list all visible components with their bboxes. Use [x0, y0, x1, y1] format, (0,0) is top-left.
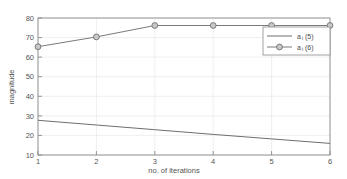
y-axis-title: magnitude [7, 69, 16, 104]
y-tick-label-10: 10 [26, 151, 34, 160]
data-point-marker [210, 23, 216, 29]
x-tick-label-6: 6 [328, 157, 332, 166]
legend-swatch-marker [277, 44, 283, 50]
legend-label-base-2: a [297, 44, 301, 51]
y-tick-label-20: 20 [26, 131, 34, 140]
legend-label-sub-2: i [302, 46, 303, 52]
line-chart: 80 70 60 50 40 30 20 10 1 2 3 4 5 6 no. … [0, 0, 347, 179]
legend[interactable]: a i (5) a i (6) [263, 27, 330, 55]
data-point-marker [94, 34, 100, 40]
x-tick-label-2: 2 [94, 157, 98, 166]
figure-container: 80 70 60 50 40 30 20 10 1 2 3 4 5 6 no. … [0, 0, 347, 179]
data-point-marker [35, 44, 41, 50]
x-tick-label-4: 4 [211, 157, 215, 166]
legend-label-tail-1: (5) [305, 33, 314, 41]
legend-box [263, 27, 330, 55]
y-tick-label-30: 30 [26, 112, 34, 121]
y-tick-label-70: 70 [26, 33, 34, 42]
legend-label-sub-1: i [302, 35, 303, 41]
y-tick-label-40: 40 [26, 92, 34, 101]
legend-label-base-1: a [297, 33, 301, 40]
legend-label-tail-2: (6) [305, 44, 314, 52]
x-axis-title: no. of iterations [148, 166, 200, 175]
y-tick-label-80: 80 [26, 14, 34, 23]
y-tick-label-60: 60 [26, 53, 34, 62]
x-tick-label-3: 3 [153, 157, 157, 166]
data-point-marker [152, 23, 158, 29]
x-tick-label-5: 5 [270, 157, 274, 166]
y-tick-label-50: 50 [26, 72, 34, 81]
x-tick-label-1: 1 [36, 157, 40, 166]
